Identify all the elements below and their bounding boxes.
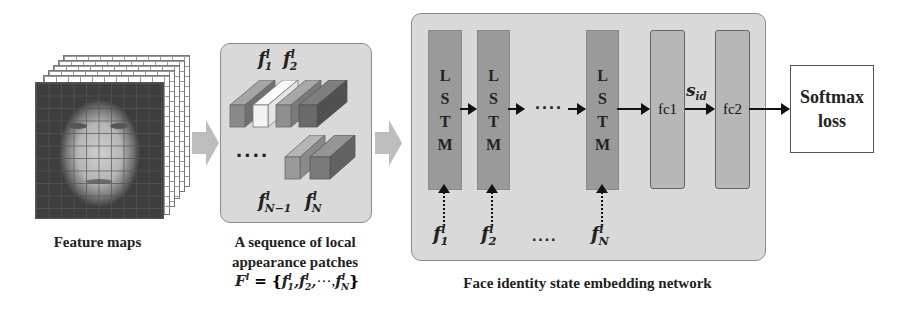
formula-item-2: fl2, <box>299 272 316 290</box>
fc1-layer: fc1 <box>650 30 685 189</box>
input-arrow-2 <box>491 192 493 222</box>
arrow-into-lstm-n <box>568 108 585 110</box>
lstm-ellipsis: ···· <box>535 98 563 119</box>
gray-arrow-icon <box>375 118 403 168</box>
formula-lhs: Fl <box>235 272 249 290</box>
formula-item-n: flN <box>335 272 349 290</box>
formula-item-1: fl1, <box>282 272 299 290</box>
arrow-lstm-n-to-fc1 <box>617 108 649 110</box>
patches-caption-line2: appearance patches <box>215 254 375 271</box>
fc2-layer: fc2 <box>715 30 750 189</box>
lstm-input-f2: fl2 <box>481 222 496 248</box>
patches-formula: Fl = {fl1,fl2,···,flN} <box>217 272 377 292</box>
patch-label-fN: flN <box>305 190 322 215</box>
patch-label-f2: fl2 <box>283 48 297 73</box>
lstm-input-fN: flN <box>591 222 609 248</box>
input-arrow-n <box>601 192 603 222</box>
sid-label: sid <box>686 80 707 102</box>
patch-ellipsis: ···· <box>236 150 269 162</box>
face-image <box>35 82 164 219</box>
arrow-lstm1-to-lstm2 <box>460 108 476 110</box>
patches-caption-line1: A sequence of local <box>215 234 375 251</box>
arrow-lstm2-out <box>508 108 524 110</box>
feature-maps-caption: Feature maps <box>30 234 165 251</box>
lstm-input-f1: fl1 <box>433 222 448 248</box>
patch-label-fN-1: flN−1 <box>258 190 291 215</box>
lstm-cell-2: LSTM <box>477 30 510 190</box>
input-ellipsis: ···· <box>532 231 557 249</box>
gray-arrow-icon <box>192 118 220 168</box>
softmax-loss-box: Softmax loss <box>790 65 874 153</box>
patch-label-f1: fl1 <box>258 48 272 73</box>
arrow-fc2-to-softmax <box>749 108 789 110</box>
arrow-fc1-to-fc2 <box>685 108 714 110</box>
patch-bars-top <box>225 80 365 140</box>
lstm-cell-1: LSTM <box>428 30 462 190</box>
face-grid-overlay <box>36 83 163 218</box>
network-caption: Face identity state embedding network <box>411 275 764 292</box>
patch-bars-bottom <box>280 135 370 195</box>
input-arrow-1 <box>443 192 445 222</box>
lstm-cell-n: LSTM <box>586 30 619 190</box>
